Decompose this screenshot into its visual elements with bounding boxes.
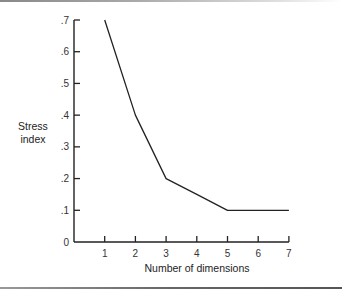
- axes: [74, 20, 289, 242]
- x-tick-label: 2: [133, 248, 139, 259]
- stress-series-line: [105, 20, 289, 210]
- y-axis-ticks: 0.1.2.3.4.5.6.7: [61, 15, 80, 248]
- y-tick-label: .7: [61, 15, 70, 26]
- y-tick-label: .4: [61, 110, 70, 121]
- x-tick-label: 4: [194, 248, 200, 259]
- x-tick-label: 7: [286, 248, 292, 259]
- x-axis-title: Number of dimensions: [144, 262, 249, 274]
- y-tick-label: .2: [61, 173, 70, 184]
- y-tick-label: .3: [61, 141, 70, 152]
- y-tick-label: .5: [61, 78, 70, 89]
- stress-line-chart: 0.1.2.3.4.5.6.7 1234567 Stress index Num…: [0, 0, 342, 290]
- y-tick-label: 0: [63, 237, 69, 248]
- y-axis-title-line1: Stress: [18, 120, 48, 132]
- x-tick-label: 3: [163, 248, 169, 259]
- x-tick-label: 6: [255, 248, 261, 259]
- x-tick-label: 5: [225, 248, 231, 259]
- x-axis-ticks: 1234567: [102, 236, 292, 259]
- x-tick-label: 1: [102, 248, 108, 259]
- y-tick-label: .1: [61, 205, 70, 216]
- y-tick-label: .6: [61, 46, 70, 57]
- y-axis-title-line2: index: [20, 133, 46, 145]
